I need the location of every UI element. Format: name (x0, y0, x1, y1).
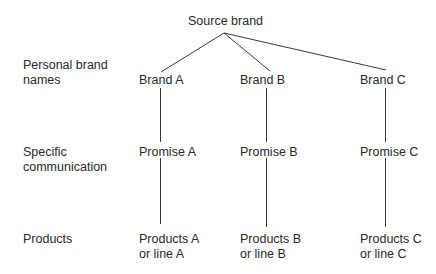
edge-root-brand-c (224, 33, 386, 70)
node-brand-c: Brand C (360, 73, 406, 88)
row-label-brand-names-line2: names (23, 73, 61, 88)
node-products-a-line1: Products A (139, 232, 199, 247)
row-label-brand-names-line1: Personal brand (23, 58, 108, 73)
node-products-a-line2: or line A (139, 247, 184, 262)
node-brand-b: Brand B (240, 73, 285, 88)
node-promise-c: Promise C (360, 145, 418, 160)
node-promise-b: Promise B (240, 145, 298, 160)
edge-root-brand-a (161, 33, 224, 72)
node-promise-a: Promise A (139, 145, 196, 160)
row-label-products: Products (23, 232, 72, 247)
node-products-b-line2: or line B (240, 247, 286, 262)
node-products-b-line1: Products B (240, 232, 301, 247)
node-brand-a: Brand A (139, 73, 183, 88)
node-products-c-line1: Products C (360, 232, 422, 247)
node-products-c-line2: or line C (360, 247, 407, 262)
root-node-source-brand: Source brand (188, 14, 263, 29)
row-label-communication-line1: Specific (23, 145, 67, 160)
row-label-communication-line2: communication (23, 160, 107, 175)
